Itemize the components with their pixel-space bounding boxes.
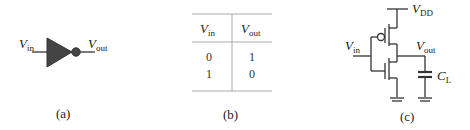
pmos-gate-bubble-icon — [378, 34, 385, 41]
table-cell-r0-c0: 0 — [206, 50, 212, 64]
vin-label: Vin — [345, 38, 360, 55]
ground-icon — [418, 98, 432, 101]
vin-label: Vin — [19, 36, 34, 53]
inverter-triangle-icon — [47, 38, 72, 67]
table-cell-r1-c0: 1 — [206, 67, 212, 81]
pmos-transistor-icon — [371, 24, 397, 46]
inversion-bubble-icon — [72, 48, 80, 56]
panel-c-cmos-circuit: VDD Vin Vout CL (c) — [345, 1, 451, 124]
nmos-transistor-icon — [371, 58, 397, 80]
panel-a: Vin Vout (a) — [19, 36, 108, 121]
caption-c: (c) — [400, 109, 414, 124]
cl-label: CL — [437, 68, 451, 85]
table-cell-r1-c1: 0 — [249, 67, 255, 81]
table-header-vout: Vout — [241, 21, 261, 38]
caption-b: (b) — [223, 107, 238, 122]
cmos-inverter-figure: Vin Vout (a) Vin Vout 0 1 1 0 (b) — [0, 0, 470, 130]
table-header-vin: Vin — [200, 21, 215, 38]
caption-a: (a) — [56, 106, 70, 121]
vdd-label: VDD — [412, 1, 433, 18]
panel-b-truth-table: Vin Vout 0 1 1 0 (b) — [192, 14, 272, 122]
ground-icon — [390, 98, 404, 101]
capacitor-icon — [418, 72, 432, 77]
vout-label: Vout — [416, 38, 436, 55]
vout-label: Vout — [88, 36, 108, 53]
table-cell-r0-c1: 1 — [249, 50, 255, 64]
